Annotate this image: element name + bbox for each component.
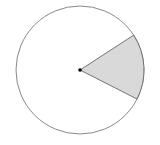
- center-point: [78, 68, 82, 72]
- circle-diagram: [0, 0, 160, 145]
